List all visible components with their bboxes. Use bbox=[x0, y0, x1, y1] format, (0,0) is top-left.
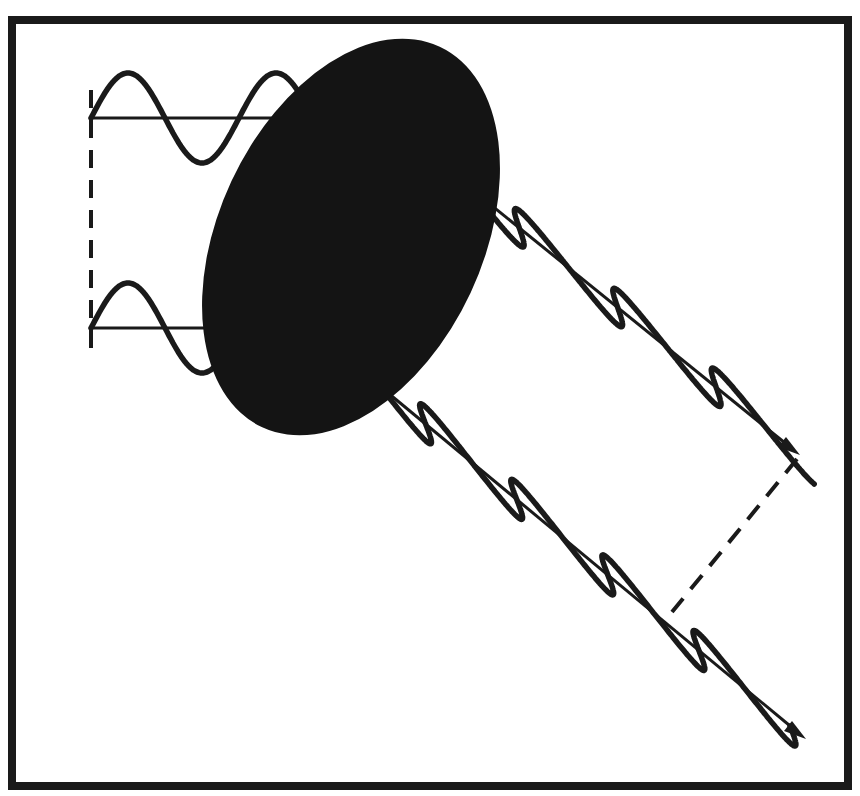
scattered-axis-lower bbox=[370, 378, 795, 730]
scattered-wave-lower bbox=[380, 386, 796, 746]
scattering-particle bbox=[143, 0, 560, 483]
scattering-diagram bbox=[0, 0, 860, 796]
scattered-wave-upper bbox=[470, 188, 814, 484]
dashed-wavefront-scattered bbox=[672, 459, 797, 612]
